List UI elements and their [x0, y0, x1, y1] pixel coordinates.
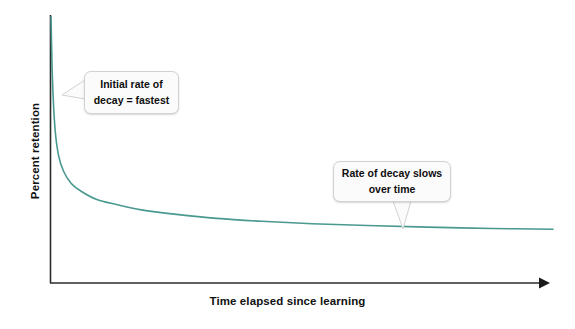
- annotation-decay-slows-line2: over time: [342, 182, 442, 197]
- annotation-initial-decay: Initial rate of decay = fastest: [84, 71, 179, 114]
- annotation-decay-slows-text: Rate of decay slows over time: [342, 166, 442, 196]
- x-axis-arrow-icon: [539, 278, 550, 289]
- x-axis-label: Time elapsed since learning: [0, 295, 575, 307]
- retention-decay-curve: [51, 17, 553, 229]
- annotation-decay-slows-line1: Rate of decay slows: [342, 166, 442, 181]
- y-axis-label: Percent retention: [29, 71, 41, 231]
- chart-canvas: [0, 0, 575, 329]
- annotation-decay-slows: Rate of decay slows over time: [333, 161, 451, 202]
- annotation-initial-decay-text: Initial rate of decay = fastest: [94, 77, 170, 107]
- annotation-initial-decay-line2: decay = fastest: [94, 93, 170, 108]
- annotation-initial-decay-line1: Initial rate of: [94, 77, 170, 92]
- forgetting-curve-figure: Percent retention Time elapsed since lea…: [0, 0, 575, 329]
